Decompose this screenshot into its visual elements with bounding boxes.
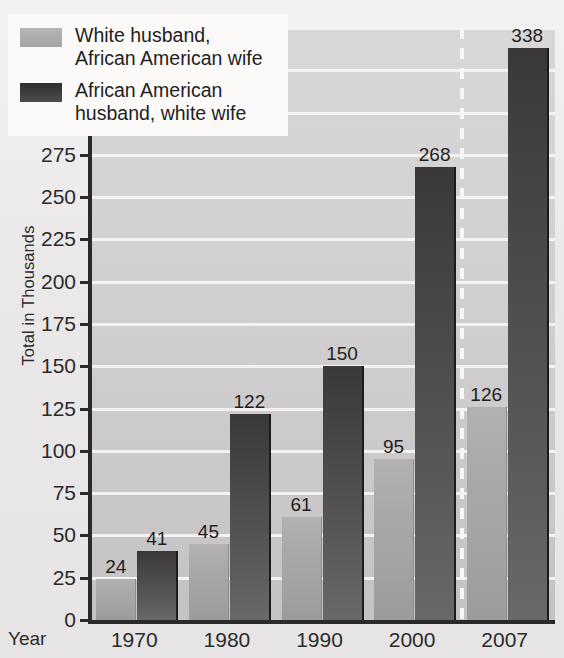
gridline [92, 281, 555, 284]
y-tick-mark [80, 492, 88, 495]
bar-african-american-husband-white-wife-2007: 338 [508, 48, 549, 620]
bar-value-label: 45 [198, 522, 219, 541]
y-tick-label: 25 [10, 567, 76, 588]
x-axis-caption: Year [8, 628, 46, 650]
y-tick-mark [80, 196, 88, 199]
y-tick-mark [80, 534, 88, 537]
y-tick-mark [80, 323, 88, 326]
bar-white-husband-african-american-wife-1980: 45 [189, 544, 229, 620]
legend-swatch-light-icon [20, 28, 62, 47]
y-tick-label: 75 [10, 482, 76, 503]
gridline [92, 196, 555, 199]
legend-item-label-line2: African American wife [75, 47, 263, 69]
dashed-separator-line [460, 28, 464, 620]
y-tick-label: 275 [10, 144, 76, 165]
legend-swatch-dark-icon [20, 83, 62, 102]
y-tick-label: 250 [10, 186, 76, 207]
bar-value-label: 150 [326, 344, 358, 363]
y-tick-label: 50 [10, 524, 76, 545]
y-tick-label: 100 [10, 440, 76, 461]
bar-value-label: 24 [105, 557, 126, 576]
y-tick-mark [80, 408, 88, 411]
gridline [92, 323, 555, 326]
legend-item: White husband, African American wife [20, 24, 276, 69]
legend-item-label-line1: African American [75, 79, 222, 101]
y-tick-mark [80, 365, 88, 368]
bar-chart: Total in Thousands 025507510012515017520… [0, 0, 564, 658]
legend-item-label: African American husband, white wife [75, 79, 246, 124]
legend: White husband, African American wife Afr… [8, 14, 288, 136]
x-tick-label-1970: 1970 [111, 628, 158, 652]
bar-african-american-husband-white-wife-1980: 122 [230, 414, 271, 620]
legend-item: African American husband, white wife [20, 79, 276, 124]
bar-african-american-husband-white-wife-2000: 268 [415, 167, 456, 620]
x-tick-label-1990: 1990 [296, 628, 343, 652]
bar-white-husband-african-american-wife-1990: 61 [282, 517, 322, 620]
bar-value-label: 122 [234, 392, 266, 411]
bar-african-american-husband-white-wife-1990: 150 [323, 366, 364, 620]
y-tick-mark [80, 281, 88, 284]
bar-value-label: 268 [419, 145, 451, 164]
y-tick-label: 225 [10, 228, 76, 249]
legend-item-label-line1: White husband, [75, 24, 211, 46]
y-tick-label: 125 [10, 398, 76, 419]
y-tick-label: 150 [10, 355, 76, 376]
y-tick-mark [80, 450, 88, 453]
gridline [92, 154, 555, 157]
x-tick-label-2000: 2000 [389, 628, 436, 652]
bar-african-american-husband-white-wife-1970: 41 [137, 551, 178, 620]
y-tick-mark [80, 154, 88, 157]
legend-item-label-line2: husband, white wife [75, 102, 246, 124]
y-tick-mark [80, 619, 88, 622]
bar-white-husband-african-american-wife-2007: 126 [467, 407, 507, 620]
bar-value-label: 61 [290, 495, 311, 514]
legend-item-label: White husband, African American wife [75, 24, 263, 69]
x-tick-label-1980: 1980 [204, 628, 251, 652]
x-tick-label-2007: 2007 [481, 628, 528, 652]
y-tick-label: 200 [10, 271, 76, 292]
y-tick-label: 0 [10, 609, 76, 630]
y-tick-label: 175 [10, 313, 76, 334]
bar-white-husband-african-american-wife-1970: 24 [96, 579, 136, 620]
y-tick-mark [80, 577, 88, 580]
gridline [92, 238, 555, 241]
bar-value-label: 41 [146, 529, 167, 548]
y-tick-mark [80, 238, 88, 241]
bar-value-label: 338 [511, 26, 543, 45]
bar-white-husband-african-american-wife-2000: 95 [374, 459, 414, 620]
bar-value-label: 126 [470, 385, 502, 404]
bar-value-label: 95 [383, 437, 404, 456]
